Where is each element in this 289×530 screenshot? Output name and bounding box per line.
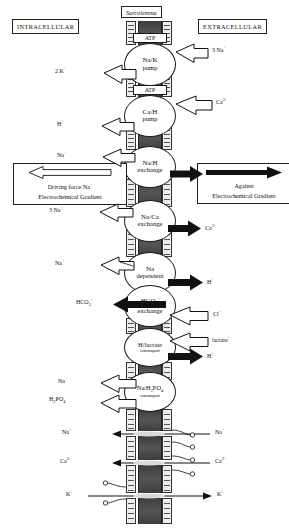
arrow-in-cl — [170, 307, 208, 325]
intracellular-label: INTRACELLULAR — [12, 19, 79, 34]
channel-label-na-inside: Na+ — [62, 427, 71, 435]
ion-label-ca-out-exchange: Ca2+ — [205, 223, 216, 231]
na-superscript: + — [90, 182, 92, 187]
membrane-leaflet-inner — [126, 465, 136, 493]
legend-line2: Electrochemical Gradient — [17, 193, 123, 201]
transporter-na-h-exchange[interactable]: Na/H exchange — [124, 146, 176, 188]
diagram-canvas: INTRACELLULAR EXTRACELLULAR Sarcolemma — [0, 0, 289, 530]
ion-label-na-in-phosphate: Na+ — [58, 376, 67, 384]
channel-label-k-inside: K+ — [66, 489, 73, 497]
transporter-na-ca-exchange[interactable]: Na/Ca exchange — [124, 200, 176, 242]
extracellular-label: EXTRACELLULAR — [198, 19, 267, 34]
arrow-out-3na — [176, 44, 208, 63]
transporter-line2: cotransport — [140, 349, 160, 354]
calcium-channel-membrane — [126, 465, 172, 493]
hollow-arrow-left-icon — [27, 166, 113, 179]
solid-arrow-right-icon — [205, 166, 283, 179]
ion-label-3na-in: 3 Na+ — [49, 205, 63, 213]
gate-stalk — [172, 470, 190, 474]
gate-ball-icon — [190, 472, 194, 476]
membrane-leaflet-outer — [162, 436, 172, 460]
membrane-leaflet-inner — [126, 498, 136, 524]
transporter-line2: dependent — [136, 273, 163, 280]
gate-ball-icon — [190, 458, 194, 462]
gate-stalk — [108, 483, 126, 487]
gate-stalk — [172, 442, 190, 447]
sarcolemma-label: Sarcolemma — [121, 6, 162, 18]
transporter-line2: exchange — [138, 308, 163, 315]
gate-stalk — [172, 430, 190, 435]
ion-label-h-in: H+ — [57, 119, 64, 127]
transporter-ca-h-pump[interactable]: Ca/H pump — [124, 95, 176, 137]
hco3-superscript: - — [158, 296, 159, 301]
transporter-line2: exchange — [138, 167, 163, 174]
membrane-core — [138, 498, 162, 524]
ion-label-3na-out: 3 Na+ — [212, 45, 226, 53]
membrane-leaflet-outer — [162, 409, 172, 431]
channel-label-na-outside: Na+ — [215, 427, 224, 435]
gate-stalk — [172, 456, 190, 460]
ion-label-na-in: Na+ — [57, 150, 66, 158]
ion-label-lactate-out: lactate- — [212, 335, 229, 343]
h2po4-sub-4: 4 — [161, 388, 163, 393]
membrane-core — [138, 465, 162, 493]
arrow-out-ca — [176, 96, 212, 115]
ion-label-cl-in: Cl- — [213, 309, 220, 317]
transporter-h-lactate-cotransport[interactable]: H/lactate cotransport — [124, 328, 176, 367]
membrane-leaflet-outer — [162, 498, 172, 524]
channel-flux-k-head — [203, 493, 212, 500]
transporter-line2: exchange — [138, 221, 163, 228]
membrane-leaflet-outer — [162, 465, 172, 493]
ion-label-h2po4-in: H2PO4 — [49, 396, 65, 404]
ion-label-h-out-lactate: H+ — [207, 351, 214, 359]
legend-line1: Driving force Na+ — [17, 182, 123, 191]
membrane-leaflet-inner — [126, 436, 136, 460]
channel-flux-ca-head — [112, 460, 121, 467]
legend-line1: Against — [201, 182, 287, 190]
ion-label-2k-in: 2 K+ — [55, 66, 66, 74]
ion-label-h-out-dependent: H+ — [207, 277, 214, 285]
ion-label-hco3-out: HCO3- — [76, 297, 92, 307]
atp-label-na-k-pump: ATP — [133, 33, 167, 43]
gate-ball-icon — [190, 433, 194, 437]
membrane-core — [138, 409, 162, 431]
gate-ball-icon — [190, 445, 194, 449]
potassium-channel-membrane — [126, 498, 172, 524]
ion-label-na-in-dependent: Na+ — [55, 258, 64, 266]
transporter-na-k-pump[interactable]: Na/K pump — [124, 43, 176, 86]
transporter-na-h2po4-cotransport[interactable]: Na/H2PO4 cotransport — [124, 372, 176, 412]
gate-ball-icon — [103, 481, 107, 485]
channel-flux-na-head — [112, 431, 121, 438]
gate-stalk — [108, 499, 126, 503]
transporter-line2: pump — [142, 65, 157, 72]
sodium-channel-membrane — [126, 436, 172, 460]
atp-label-ca-h-pump: ATP — [133, 85, 167, 95]
ion-label-ca-out: Ca2+ — [216, 97, 227, 105]
channel-label-k-outside: K+ — [217, 489, 224, 497]
membrane-segment — [126, 409, 172, 431]
legend-driving-force: Driving force Na+ Electrochemical Gradie… — [13, 163, 127, 205]
transporter-hco3-exchange[interactable]: HCO3- exchange — [124, 285, 176, 327]
transporter-line2: cotransport — [140, 394, 160, 399]
channel-label-ca-outside: Ca2+ — [215, 456, 226, 464]
gate-ball-icon — [103, 501, 107, 505]
transporter-line2: pump — [142, 116, 157, 123]
ion-label-h-out: H+ — [207, 168, 214, 176]
membrane-core — [138, 436, 162, 460]
membrane-leaflet-inner — [126, 409, 136, 431]
legend-line2: Electrochemical Gradient — [201, 192, 287, 200]
channel-label-ca-inside: Ca2+ — [60, 456, 71, 464]
